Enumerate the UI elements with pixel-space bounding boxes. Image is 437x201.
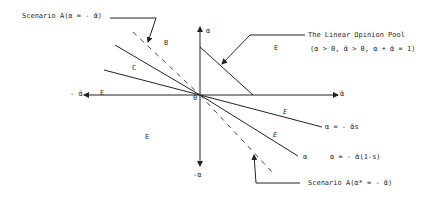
line-c-lower — [104, 70, 200, 95]
origin-label: 0 — [193, 94, 197, 103]
region-e-left-axis: E — [100, 89, 104, 98]
linear-opinion-pool-line — [200, 47, 253, 95]
region-e-lower-right-1: E — [283, 108, 287, 117]
linear-pool-title: The Linear Opinion Pool — [308, 31, 405, 40]
line-alpha-s — [200, 95, 322, 127]
x-axis-negative-label: - ᾱ — [70, 90, 83, 99]
scenario-top-pointer — [110, 18, 156, 42]
y-axis-negative-label: -α — [193, 171, 201, 180]
line-c-upper — [115, 45, 200, 95]
line-alpha-1ms-label: α = - ᾱ(1-s) — [330, 153, 381, 162]
scenario-top-label: Scenario A(α = - ᾱ) — [22, 12, 102, 21]
scenario-bottom-pointer — [254, 155, 300, 183]
scenario-bottom-label: Scenario A(α* = - ᾱ) — [308, 179, 392, 188]
linear-pool-condition: (α > 0, ᾱ > 0, α + ᾱ = 1) — [310, 45, 415, 54]
region-c-label: C — [132, 64, 136, 73]
x-axis-positive-label: ᾱ — [340, 90, 344, 99]
region-b-label: B — [164, 39, 168, 48]
line-alpha-1ms-short-label: α — [303, 153, 307, 162]
line-alpha-s-label: α = - ᾱs — [325, 123, 359, 132]
y-axis-positive-label: α — [206, 27, 210, 36]
region-e-lower-right-2: E — [273, 131, 277, 140]
region-e-lower-left: E — [145, 133, 149, 142]
linear-pool-pointer — [222, 35, 305, 64]
region-e-upper-right: E — [274, 44, 278, 53]
